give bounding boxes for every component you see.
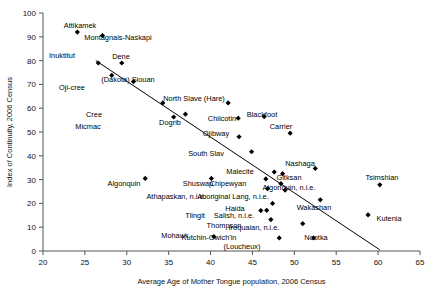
data-point-label: Malecite: [226, 167, 254, 176]
y-tick-label: 30: [27, 176, 36, 185]
y-tick-label: 10: [27, 223, 36, 232]
y-tick-label: 0: [32, 247, 37, 256]
x-tick-label: 25: [80, 258, 89, 267]
data-point-label: (Loucheux): [224, 242, 261, 251]
data-point-label: North Slave (Hare): [163, 94, 225, 103]
data-point-marker: [277, 235, 282, 240]
data-point-marker: [288, 131, 293, 136]
data-point-label: Attikamek: [64, 21, 97, 30]
data-point-label: Kutchin-Gwich'in: [182, 233, 237, 242]
data-point-label: Montagnais-Naskapi: [84, 33, 152, 42]
x-tick-label: 30: [122, 258, 131, 267]
x-tick-label: 55: [332, 258, 341, 267]
scatter-chart: 0102030405060708090100202530354045505560…: [0, 0, 432, 287]
data-point-label: Inuktitut: [49, 51, 75, 60]
y-tick-label: 80: [27, 57, 36, 66]
data-point-marker: [270, 201, 275, 206]
data-point-marker: [183, 112, 188, 117]
y-tick-label: 70: [27, 80, 36, 89]
y-tick-label: 40: [27, 152, 36, 161]
data-point-marker: [236, 116, 241, 121]
data-point-label: Micmac: [75, 122, 101, 131]
data-point-label: Nootka: [304, 233, 328, 242]
data-point-label: Nashaga: [285, 159, 315, 168]
x-tick-label: 45: [248, 258, 257, 267]
data-point-marker: [300, 221, 305, 226]
data-point-marker: [264, 208, 269, 213]
data-point-marker: [318, 197, 323, 202]
x-tick-label: 65: [416, 258, 425, 267]
data-point-marker: [377, 182, 382, 187]
data-point-marker: [249, 149, 254, 154]
data-point-marker: [258, 208, 263, 213]
data-point-label: Wakashan: [297, 203, 332, 212]
data-point-marker: [263, 176, 268, 181]
x-tick-label: 20: [39, 258, 48, 267]
data-point-marker: [236, 134, 241, 139]
x-tick-label: 40: [206, 258, 215, 267]
data-point-label: Carrier: [270, 122, 293, 131]
y-axis-title: Index of Continuity, 2006 Census: [5, 77, 14, 187]
data-point-label: Ojibway: [203, 129, 230, 138]
data-point-label: Gitksan: [276, 173, 301, 182]
y-tick-label: 60: [27, 104, 36, 113]
data-point-label: Iroquaian, n.i.e.: [229, 223, 280, 232]
data-point-label: South Slav: [188, 149, 224, 158]
y-tick-label: 20: [27, 199, 36, 208]
data-point-label: Algonquin: [108, 179, 141, 188]
data-point-label: Kutenia: [376, 214, 402, 223]
chart-canvas: 0102030405060708090100202530354045505560…: [0, 0, 432, 287]
data-point-label: Salish, n.i.e.: [214, 211, 254, 220]
y-tick-label: 100: [23, 9, 37, 18]
data-point-label: Aboriginal Lang, n.i.e.: [197, 192, 269, 201]
data-point-marker: [365, 212, 370, 217]
data-point-label: Blackfoot: [247, 110, 277, 119]
x-tick-label: 35: [164, 258, 173, 267]
data-point-label: Cree: [86, 110, 102, 119]
data-point-label: Tlingit: [185, 211, 205, 220]
x-tick-label: 50: [290, 258, 299, 267]
data-point-marker: [143, 176, 148, 181]
data-point-label: Dogrib: [159, 118, 181, 127]
x-tick-label: 60: [374, 258, 383, 267]
data-point-marker: [268, 217, 273, 222]
data-point-label: Shuswap: [183, 179, 213, 188]
data-point-label: Algonquin, n.i.e.: [262, 183, 315, 192]
y-tick-label: 90: [27, 33, 36, 42]
data-point-marker: [119, 60, 124, 65]
x-axis-title: Average Age of Mother Tongue population,…: [137, 277, 325, 286]
data-point-label: Dene: [112, 52, 130, 61]
data-point-label: Tsimshian: [366, 173, 399, 182]
y-tick-label: 50: [27, 128, 36, 137]
data-point-label: Chilcotin: [208, 114, 236, 123]
data-point-marker: [75, 29, 80, 34]
data-point-label: Oji-cree: [59, 83, 85, 92]
data-point-label: Chipewyan: [210, 179, 247, 188]
data-point-marker: [226, 100, 231, 105]
data-point-label: (Dakota) Siouan: [101, 75, 154, 84]
